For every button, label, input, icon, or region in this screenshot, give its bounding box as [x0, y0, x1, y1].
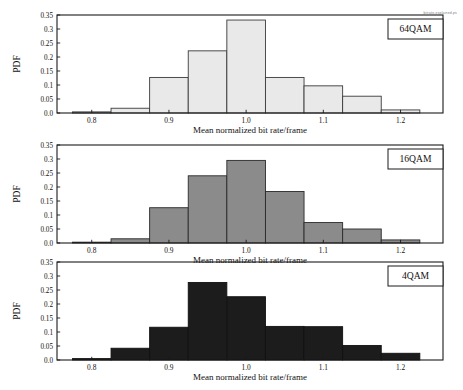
x-tick-label: 0.9 [164, 116, 174, 125]
plot-area-16qam: 0.00.050.10.150.20.250.30.350.80.91.01.1… [0, 135, 463, 263]
histogram-bar [227, 20, 266, 113]
y-tick-label: 0.25 [40, 287, 53, 295]
histogram-bar [227, 160, 266, 243]
histogram-bar [150, 208, 189, 243]
histogram-bar [304, 86, 343, 113]
histogram-bar [343, 229, 382, 243]
bar-series [72, 282, 419, 360]
y-tick-label: 0.05 [40, 343, 53, 351]
histogram-bar [188, 176, 227, 243]
figure-histograms-pdf: bitrate-explained.ps 0.00.050.10.150.20.… [0, 0, 463, 390]
y-tick-label: 0.2 [44, 54, 53, 62]
bar-series [72, 20, 419, 113]
histogram-bar [188, 282, 227, 360]
y-tick-label: 0.0 [44, 110, 53, 118]
y-tick-label: 0.25 [40, 40, 53, 48]
x-tick-label: 1.2 [396, 116, 406, 125]
y-tick-label: 0.05 [40, 96, 53, 104]
y-tick-label: 0.35 [40, 259, 53, 267]
x-axis-label: Mean normalized bit rate/frame [193, 372, 307, 380]
y-tick-label: 0.3 [44, 273, 53, 281]
y-tick-label: 0.05 [40, 226, 53, 234]
y-tick-label: 0.15 [40, 315, 53, 323]
y-tick-label: 0.15 [40, 198, 53, 206]
chart-panel-4qam: 0.00.050.10.150.20.250.30.350.80.91.01.1… [0, 252, 463, 380]
y-tick-label: 0.1 [44, 82, 53, 90]
plot-area-4qam: 0.00.050.10.150.20.250.30.350.80.91.01.1… [0, 252, 463, 380]
histogram-bar [265, 77, 304, 113]
y-axis-label: PDF [12, 185, 22, 202]
y-tick-label: 0.1 [44, 212, 53, 220]
x-tick-label: 0.9 [164, 363, 174, 372]
histogram-bar [111, 239, 150, 243]
y-tick-label: 0.35 [40, 12, 53, 20]
x-tick-label: 1.0 [242, 116, 252, 125]
y-tick-label: 0.25 [40, 170, 53, 178]
x-tick-label: 1.2 [396, 363, 406, 372]
x-axis-label: Mean normalized bit rate/frame [193, 125, 307, 133]
y-tick-label: 0.0 [44, 357, 53, 365]
chart-panel-64qam: 0.00.050.10.150.20.250.30.350.80.91.01.1… [0, 5, 463, 133]
x-tick-label: 1.0 [242, 363, 252, 372]
histogram-bar [188, 51, 227, 113]
histogram-bar [304, 327, 343, 360]
x-tick-label: 1.1 [319, 116, 329, 125]
chart-panel-16qam: 0.00.050.10.150.20.250.30.350.80.91.01.1… [0, 135, 463, 263]
bar-series [72, 160, 419, 243]
histogram-bar [343, 96, 382, 113]
x-tick-label: 0.8 [87, 363, 97, 372]
y-tick-label: 0.1 [44, 329, 53, 337]
y-tick-label: 0.3 [44, 156, 53, 164]
y-tick-label: 0.0 [44, 240, 53, 248]
x-tick-label: 0.8 [87, 116, 97, 125]
histogram-bar [343, 345, 382, 360]
histogram-bar [150, 77, 189, 113]
legend-label: 4QAM [402, 270, 430, 281]
histogram-bar [111, 348, 150, 360]
histogram-bar [111, 108, 150, 113]
x-tick-label: 1.1 [319, 363, 329, 372]
y-tick-label: 0.2 [44, 301, 53, 309]
histogram-bar [150, 327, 189, 360]
y-tick-label: 0.3 [44, 26, 53, 34]
histogram-bar [227, 297, 266, 360]
y-tick-label: 0.35 [40, 142, 53, 150]
y-axis-label: PDF [12, 55, 22, 72]
y-axis-label: PDF [12, 302, 22, 319]
y-tick-label: 0.15 [40, 68, 53, 76]
legend-label: 64QAM [400, 23, 432, 34]
histogram-bar [265, 326, 304, 360]
legend-label: 16QAM [400, 153, 432, 164]
y-tick-label: 0.2 [44, 184, 53, 192]
plot-area-64qam: 0.00.050.10.150.20.250.30.350.80.91.01.1… [0, 5, 463, 133]
histogram-bar [265, 191, 304, 243]
